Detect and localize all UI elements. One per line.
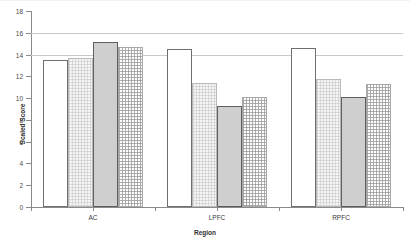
- x-boundary-tick: [31, 207, 32, 211]
- bar: [43, 60, 68, 207]
- x-tick: [93, 207, 94, 211]
- bar: [291, 48, 316, 207]
- x-tick-label: AC: [88, 214, 97, 221]
- bar-chart: Scaled Score 024681012141618 ACLPFCRPFC …: [0, 0, 410, 247]
- y-tick-label: 12: [16, 73, 23, 80]
- bar: [167, 49, 192, 207]
- y-tick-label: 16: [16, 29, 23, 36]
- x-tick-label: LPFC: [209, 214, 226, 221]
- scan-artifact-line: [0, 0, 410, 1]
- y-tick-label: 4: [19, 160, 23, 167]
- x-boundary-tick: [279, 207, 280, 211]
- y-tick-label: 14: [16, 51, 23, 58]
- y-tick-label: 0: [19, 204, 23, 211]
- y-tick-label: 8: [19, 116, 23, 123]
- y-tick-label: 18: [16, 8, 23, 15]
- x-tick: [341, 207, 342, 211]
- y-tick-label: 10: [16, 95, 23, 102]
- bar: [93, 42, 118, 208]
- x-boundary-tick: [403, 207, 404, 211]
- y-tick-label: 6: [19, 138, 23, 145]
- bar: [341, 97, 366, 207]
- x-axis-title: Region: [0, 229, 410, 236]
- x-tick: [217, 207, 218, 211]
- x-tick-label: RPFC: [332, 214, 350, 221]
- bar: [242, 97, 267, 207]
- bar: [118, 47, 143, 207]
- y-tick-label: 2: [19, 182, 23, 189]
- bar: [68, 58, 93, 207]
- x-boundary-tick: [155, 207, 156, 211]
- bar: [366, 84, 391, 207]
- bar: [316, 79, 341, 207]
- bars-layer: [31, 11, 403, 207]
- bar: [217, 106, 242, 207]
- plot-area: 024681012141618: [31, 11, 403, 207]
- bar: [192, 83, 217, 207]
